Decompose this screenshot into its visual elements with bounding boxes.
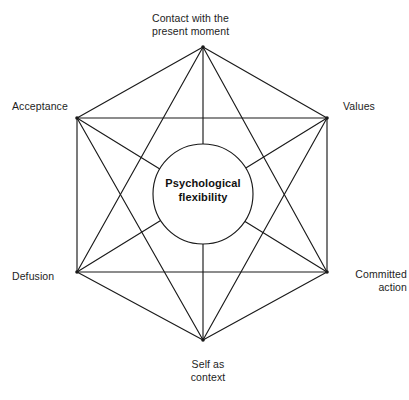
vertex-contact-present-moment [201, 45, 205, 49]
vertex-self-as-context [201, 338, 205, 342]
node-label-defusion: Defusion [12, 270, 92, 283]
node-label-committed-action: Committed action [339, 268, 407, 294]
vertex-acceptance [75, 116, 79, 120]
edge-contact-acceptance [77, 47, 203, 118]
vertex-values [325, 116, 329, 120]
center-label-psychological-flexibility: Psychological flexibility [146, 176, 260, 204]
node-label-self-as-context: Self as context [160, 358, 256, 384]
vertex-committed-action [325, 270, 329, 274]
node-label-contact-present-moment: Contact with the present moment [152, 12, 272, 38]
edge-contact-values [203, 47, 327, 118]
hexaflex-diagram: Contact with the present moment Values C… [0, 0, 409, 400]
node-label-values: Values [343, 100, 407, 113]
node-label-acceptance: Acceptance [12, 100, 92, 113]
